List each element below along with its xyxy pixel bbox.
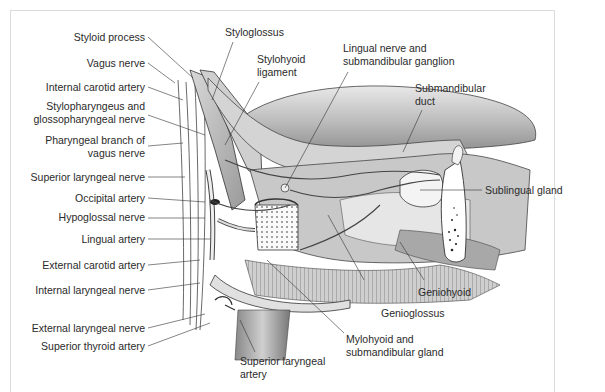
label-vagus-nerve: Vagus nerve <box>87 57 145 70</box>
label-geniohyoid: Geniohyoid <box>418 286 471 299</box>
label-line-1: Mylohyoid and <box>346 333 443 346</box>
label-line-1: Stylohyoid <box>257 53 305 66</box>
label-stylohyoid-ligament: Stylohyoid ligament <box>257 53 305 78</box>
label-external-carotid-artery: External carotid artery <box>42 259 145 272</box>
label-line-1: Superior laryngeal <box>240 355 325 368</box>
neck-vessels <box>178 80 205 330</box>
label-superior-laryngeal-artery: Superior laryngeal artery <box>240 355 325 380</box>
label-pharyngeal-branch: Pharyngeal branch of vagus nerve <box>45 134 145 159</box>
label-line-1: Lingual nerve and <box>343 42 455 55</box>
label-line-1: Pharyngeal branch of <box>45 134 145 147</box>
label-external-laryngeal-nerve: External laryngeal nerve <box>32 322 145 335</box>
label-line-2: submandibular gland <box>346 346 443 359</box>
label-line-2: artery <box>240 368 325 381</box>
label-superior-laryngeal-nerve: Superior laryngeal nerve <box>31 171 145 184</box>
label-line-2: ligament <box>257 66 305 79</box>
label-superior-thyroid-artery: Superior thyroid artery <box>41 340 145 353</box>
label-hypoglossal-nerve: Hypoglossal nerve <box>59 211 145 224</box>
label-genioglossus: Genioglossus <box>381 307 445 320</box>
label-stylopharyngeus: Stylopharyngeus and glossopharyngeal ner… <box>34 100 146 125</box>
label-lingual-artery: Lingual artery <box>81 233 145 246</box>
label-internal-carotid-artery: Internal carotid artery <box>46 81 145 94</box>
label-styloid-process: Styloid process <box>74 31 145 44</box>
label-line-2: glossopharyngeal nerve <box>34 113 146 126</box>
label-submandibular-duct: Submandibular duct <box>415 82 486 107</box>
label-line-1: Submandibular <box>415 82 486 95</box>
label-line-2: duct <box>415 95 486 108</box>
label-internal-laryngeal-nerve: Internal laryngeal nerve <box>35 284 145 297</box>
label-sublingual-gland: Sublingual gland <box>485 184 563 197</box>
label-mylohyoid: Mylohyoid and submandibular gland <box>346 333 443 358</box>
label-styloglossus: Styloglossus <box>225 26 284 39</box>
label-line-1: Stylopharyngeus and <box>34 100 146 113</box>
label-line-2: submandibular ganglion <box>343 55 455 68</box>
label-line-2: vagus nerve <box>45 147 145 160</box>
label-occipital-artery: Occipital artery <box>75 192 145 205</box>
label-lingual-nerve: Lingual nerve and submandibular ganglion <box>343 42 455 67</box>
